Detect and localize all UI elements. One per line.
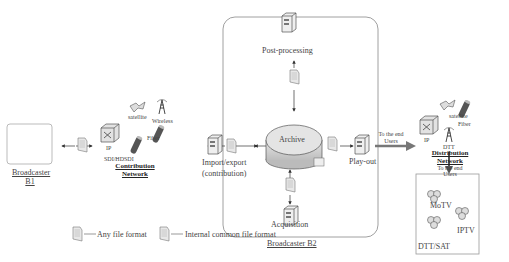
post-processing-label: Post-processing	[262, 46, 313, 55]
motv-label: MoTV	[430, 201, 452, 210]
archive-label: Archive	[279, 135, 305, 144]
contrib-satellite-label: satellite	[128, 113, 147, 122]
b1-line2: B1	[25, 177, 34, 186]
dist-title-1: Distribution	[432, 149, 469, 157]
contrib-fiber-label: Fiber	[147, 134, 160, 143]
import-export-label: Import/export(contribution)	[202, 157, 246, 179]
dtt-sat-label: DTT/SAT	[418, 242, 450, 251]
legend-internal-common-file-format: Internal common file format	[185, 230, 276, 239]
contrib-title-1: Contribution	[115, 162, 154, 170]
broadcaster-b1-box	[7, 124, 52, 164]
iptv-label: IPTV	[457, 226, 475, 235]
diagram-graphics	[0, 0, 509, 262]
to-users-2: Users	[384, 138, 398, 144]
b1-line1: Broadcaster	[12, 168, 50, 177]
contribution-network-title: ContributionNetwork	[110, 162, 160, 178]
dist-title-2: Network	[437, 157, 463, 165]
import-export-line1: Import/export	[202, 158, 246, 167]
acquisition-label: Acquisition	[271, 220, 308, 229]
contrib-ip-label: IP	[106, 144, 111, 153]
to-end-users-label: To the endUsers	[374, 131, 408, 145]
play-out-label: Play-out	[349, 157, 376, 166]
contrib-title-2: Network	[122, 170, 148, 178]
to-users-1: To the end	[378, 131, 403, 137]
dist-to-users-label: To the endUsers	[430, 165, 470, 177]
broadcaster-b2-label: Broadcaster B2	[267, 239, 317, 248]
broadcaster-b1-label: BroadcasterB1	[12, 168, 48, 186]
legend-any-file-format: Any file format	[97, 230, 147, 239]
dist-fiber-label: Fiber	[458, 120, 471, 129]
contrib-wireless-label: Wireless	[152, 117, 173, 126]
dist-to-users-2: Users	[443, 171, 457, 177]
import-export-line2: (contribution)	[202, 169, 246, 178]
dist-ip-label: IP	[424, 136, 429, 145]
diagram-canvas: BroadcasterB1 IP satellite Wireless Fibe…	[0, 0, 509, 262]
distribution-network-title: DistributionNetwork	[426, 149, 474, 165]
